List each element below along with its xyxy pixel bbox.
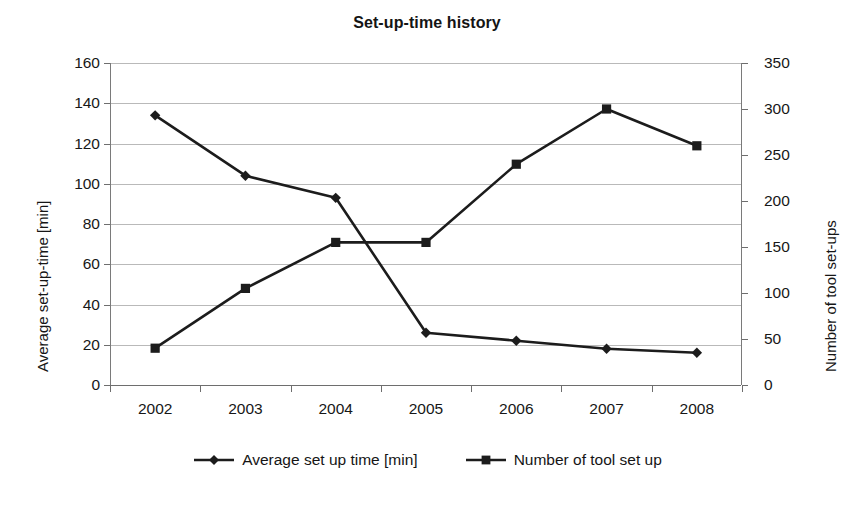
left-tick-label: 60 [54,255,100,273]
legend-entry[interactable]: Average set up time [min] [192,452,417,468]
square-marker [151,344,160,353]
right-tick-label: 100 [754,284,820,302]
square-marker [692,141,701,150]
gridline [111,385,741,386]
square-marker [421,238,430,247]
right-tick-mark [742,247,748,248]
diamond-marker [192,453,236,467]
right-tick-label: 0 [754,376,820,394]
right-tick-label: 200 [754,192,820,210]
left-tick-label: 100 [54,175,100,193]
square-marker [481,455,490,464]
diamond-marker [511,336,521,346]
left-tick-label: 40 [54,296,100,314]
legend-entry[interactable]: Number of tool set up [464,452,662,468]
legend-label: Average set up time [min] [242,452,417,468]
square-marker [331,238,340,247]
left-tick-label: 140 [54,94,100,112]
diamond-marker [692,348,702,358]
chart-legend: Average set up time [min]Number of tool … [0,452,854,468]
right-tick-mark [742,109,748,110]
right-tick-label: 350 [754,54,820,72]
chart-title: Set-up-time history [0,14,854,32]
series-layer [110,63,742,385]
square-marker [602,104,611,113]
right-tick-mark [742,63,748,64]
left-tick-label: 160 [54,54,100,72]
square-marker [464,453,508,467]
right-tick-label: 150 [754,238,820,256]
square-marker [512,160,521,169]
right-tick-label: 300 [754,100,820,118]
x-tick-label: 2006 [481,400,551,418]
x-tick-label: 2003 [210,400,280,418]
right-tick-mark [742,293,748,294]
x-tick-label: 2002 [120,400,190,418]
square-marker [241,284,250,293]
series-line [155,109,697,348]
x-tick-mark [110,385,111,392]
x-tick-mark [742,385,743,392]
x-tick-label: 2004 [301,400,371,418]
left-tick-label: 120 [54,135,100,153]
left-axis-title: Average set-up-time [min] [34,201,51,372]
right-tick-mark [742,201,748,202]
x-tick-mark [471,385,472,392]
left-tick-label: 80 [54,215,100,233]
diamond-marker [209,455,219,465]
x-tick-label: 2007 [572,400,642,418]
right-tick-label: 250 [754,146,820,164]
x-tick-mark [652,385,653,392]
right-tick-mark [742,339,748,340]
diamond-marker [601,344,611,354]
right-tick-label: 50 [754,330,820,348]
x-tick-label: 2005 [391,400,461,418]
left-tick-label: 0 [54,376,100,394]
right-axis-title: Number of tool set-ups [822,220,839,372]
chart-container: Set-up-time history 02040608010012014016… [0,0,854,507]
x-tick-mark [561,385,562,392]
series-line [155,115,697,352]
left-tick-label: 20 [54,336,100,354]
right-tick-mark [742,155,748,156]
x-tick-mark [381,385,382,392]
x-tick-label: 2008 [662,400,732,418]
x-tick-mark [291,385,292,392]
x-tick-mark [200,385,201,392]
legend-label: Number of tool set up [514,452,662,468]
